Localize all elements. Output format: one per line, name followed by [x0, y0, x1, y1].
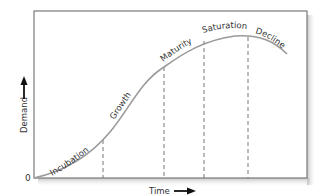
- origin-label: 0: [25, 173, 31, 183]
- y-axis-arrow-icon: [21, 76, 28, 99]
- x-axis-label: Time: [148, 186, 170, 196]
- y-axis-label: Demand: [19, 97, 29, 133]
- life-cycle-diagram: Incubation Growth Maturity Saturation De…: [0, 0, 323, 196]
- frame-shadow-right: [307, 15, 316, 185]
- x-axis-arrow-icon: [174, 188, 196, 195]
- frame-shadow-bottom: [38, 178, 310, 187]
